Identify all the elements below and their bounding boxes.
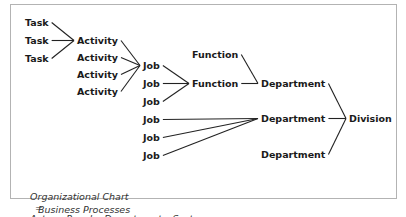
nodes: TaskTaskTaskActivityActivityActivityActi… <box>25 17 392 161</box>
legend-equals: = <box>42 215 60 217</box>
edge-func1-to-dept1 <box>241 55 258 84</box>
node-activity: Activity <box>77 52 119 63</box>
node-job: Job <box>142 60 160 71</box>
node-function: Function <box>192 49 238 60</box>
edge-job6-to-dept2 <box>163 119 258 156</box>
edge-job5-to-dept2 <box>163 119 258 138</box>
node-job: Job <box>142 150 160 161</box>
edge-dept1-to-div1 <box>328 84 346 119</box>
node-activity: Activity <box>77 86 119 97</box>
node-task: Task <box>25 17 49 28</box>
node-job: Job <box>142 96 160 107</box>
node-job: Job <box>142 132 160 143</box>
node-department: Department <box>261 149 326 160</box>
legend-row-business-processes: Business Processes = Behavior <box>32 193 130 217</box>
node-activity: Activity <box>77 35 119 46</box>
node-activity: Activity <box>77 69 119 80</box>
legend-term: Business Processes <box>38 204 130 215</box>
edge-job3-to-func2 <box>163 84 189 102</box>
node-department: Department <box>261 78 326 89</box>
node-job: Job <box>142 114 160 125</box>
edge-task1-to-act1 <box>52 23 74 41</box>
node-task: Task <box>25 53 49 64</box>
edge-job1-to-func2 <box>163 66 189 84</box>
node-job: Job <box>142 78 160 89</box>
edge-dept3-to-div1 <box>328 119 346 155</box>
node-department: Department <box>261 113 326 124</box>
edge-task3-to-act1 <box>52 41 74 59</box>
node-function: Function <box>192 78 238 89</box>
node-task: Task <box>25 35 49 46</box>
node-division: Division <box>349 113 392 124</box>
edge-job4-to-dept2 <box>163 119 258 120</box>
